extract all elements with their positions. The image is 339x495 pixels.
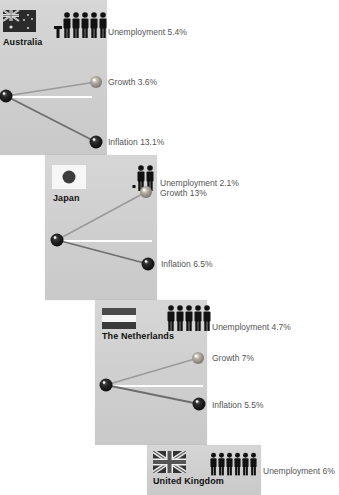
inflation-ball <box>142 258 155 271</box>
inflation-label-australia: Inflation 13.1% <box>108 137 164 147</box>
growth-ball <box>192 352 204 364</box>
unemployment-label-australia: Unemployment 5.4% <box>108 27 187 37</box>
origin-ball <box>100 379 113 392</box>
unemployment-label-japan: Unemployment 2.1% <box>160 178 239 188</box>
growth-label-australia: Growth 3.6% <box>108 77 157 87</box>
netherlands-plot <box>100 352 206 411</box>
australia-plot <box>0 76 103 149</box>
origin-ball <box>0 90 13 103</box>
growth-label-netherlands: Growth 7% <box>212 353 254 363</box>
inflation-ball <box>90 136 103 149</box>
growth-ball <box>140 186 152 198</box>
japan-plot <box>51 186 155 271</box>
inflation-label-japan: Inflation 6.5% <box>161 259 213 269</box>
inflation-ball <box>193 398 206 411</box>
unemployment-label-united-kingdom: Unemployment 6% <box>263 466 335 476</box>
growth-ball <box>90 76 102 88</box>
ball-plot <box>0 0 339 495</box>
inflation-label-netherlands: Inflation 5.5% <box>212 400 264 410</box>
origin-ball <box>51 234 64 247</box>
unemployment-label-netherlands: Unemployment 4.7% <box>212 322 291 332</box>
growth-label-japan: Growth 13% <box>160 188 207 198</box>
